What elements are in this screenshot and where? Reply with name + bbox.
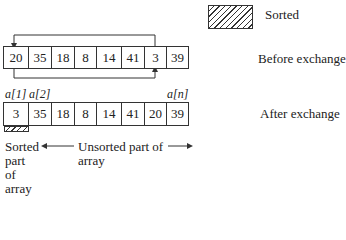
sorted-part-label-line4: array	[5, 181, 32, 197]
array-cell: 41	[122, 47, 145, 68]
array-cell: 20	[4, 47, 29, 68]
array-cell: 35	[29, 47, 52, 68]
array-cell: 14	[97, 103, 122, 125]
array-cell: 18	[52, 47, 75, 68]
sorted-part-marker	[4, 126, 29, 132]
array-before-exchange: 20 35 18 8 14 41 3 39	[3, 46, 189, 69]
array-cell: 8	[75, 47, 97, 68]
array-cell: 14	[97, 47, 122, 68]
before-exchange-label: Before exchange	[258, 51, 346, 67]
array-cell-sorted: 3	[4, 103, 29, 125]
index-label-a1: a[1]	[5, 87, 26, 102]
index-label-a2: a[2]	[29, 87, 50, 102]
array-cell: 39	[167, 47, 188, 68]
array-after-exchange: 3 35 18 8 14 41 20 39	[3, 102, 189, 126]
after-exchange-label: After exchange	[260, 106, 340, 122]
array-cell: 39	[167, 103, 188, 125]
array-cell: 35	[29, 103, 52, 125]
unsorted-part-label-line2: array	[78, 153, 105, 169]
index-label-an: a[n]	[167, 87, 188, 102]
array-cell: 8	[75, 103, 97, 125]
array-cell: 41	[122, 103, 145, 125]
array-cell: 20	[145, 103, 167, 125]
array-cell: 3	[145, 47, 167, 68]
array-cell: 18	[52, 103, 75, 125]
